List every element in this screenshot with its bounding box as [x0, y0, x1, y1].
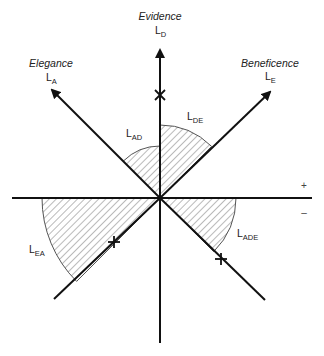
- region-ea-label: LEA: [29, 243, 45, 258]
- region-ad-label: LAD: [126, 127, 143, 142]
- plus-sign: +: [301, 180, 307, 191]
- evidence-symbol: LD: [155, 24, 167, 39]
- region-ade-sector: [160, 198, 236, 252]
- region-de-sector: [160, 125, 212, 198]
- region-ade-label: LADE: [237, 227, 258, 242]
- plus-marker-icon: [215, 253, 227, 265]
- elegance-title: Elegance: [29, 57, 73, 69]
- elegance-symbol: LA: [46, 71, 57, 86]
- region-ad-sector: [123, 146, 160, 198]
- minus-sign: –: [301, 207, 307, 218]
- ethics-axes-diagram: Evidence LD Elegance LA Beneficence LE L…: [0, 0, 324, 356]
- beneficence-symbol: LE: [265, 70, 276, 85]
- elegance-axis: [52, 90, 160, 198]
- region-ea-sector: [42, 198, 160, 281]
- region-de-label: LDE: [187, 110, 203, 125]
- beneficence-title: Beneficence: [241, 57, 299, 69]
- evidence-title: Evidence: [138, 10, 181, 22]
